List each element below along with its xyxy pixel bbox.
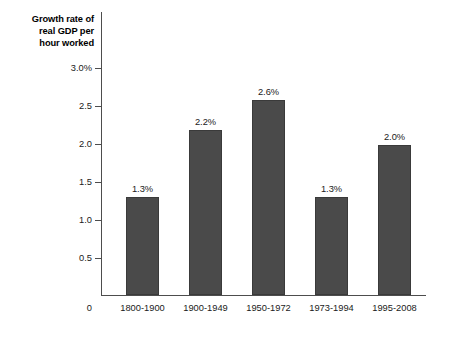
y-tick-2.5 (95, 106, 101, 107)
bar-1995-2008 (378, 145, 411, 295)
bar-value-1973-1994: 1.3% (299, 184, 364, 194)
y-tick-label-2.0: 2.0 (22, 139, 92, 149)
y-tick-label-2.5: 2.5 (22, 101, 92, 111)
x-tick-label-1800-1900: 1800-1900 (110, 303, 175, 313)
x-tick-label-1995-2008: 1995-2008 (362, 303, 427, 313)
y-tick-2.0 (95, 144, 101, 145)
y-tick-1.0 (95, 220, 101, 221)
axis-title-line-1: Growth rate of (8, 13, 94, 25)
y-tick-label-3.0: 3.0% (22, 63, 92, 73)
bar-value-1800-1900: 1.3% (110, 184, 175, 194)
x-tick-label-1900-1949: 1900-1949 (173, 303, 238, 313)
y-tick-label-1.5: 1.5 (22, 177, 92, 187)
y-tick-3.0 (95, 68, 101, 69)
chart-axis-title: Growth rate of real GDP per hour worked (8, 13, 94, 50)
y-tick-label-0: 0 (62, 303, 92, 313)
bar-value-1950-1972: 2.6% (236, 87, 301, 97)
bar-1800-1900 (126, 197, 159, 295)
y-axis-line (101, 12, 102, 296)
bar-1973-1994 (315, 197, 348, 295)
y-tick-label-1.0: 1.0 (22, 215, 92, 225)
bar-1900-1949 (189, 130, 222, 295)
x-tick-label-1950-1972: 1950-1972 (236, 303, 301, 313)
bar-1950-1972 (252, 100, 285, 295)
y-tick-0.5 (95, 258, 101, 259)
bar-value-1900-1949: 2.2% (173, 117, 238, 127)
y-tick-label-0.5: 0.5 (22, 253, 92, 263)
axis-title-line-2: real GDP per (8, 25, 94, 37)
bar-value-1995-2008: 2.0% (362, 132, 427, 142)
bar-chart: Growth rate of real GDP per hour worked … (0, 0, 450, 338)
x-axis-line (101, 295, 426, 296)
axis-title-line-3: hour worked (8, 37, 94, 49)
x-tick-label-1973-1994: 1973-1994 (299, 303, 364, 313)
y-tick-1.5 (95, 182, 101, 183)
